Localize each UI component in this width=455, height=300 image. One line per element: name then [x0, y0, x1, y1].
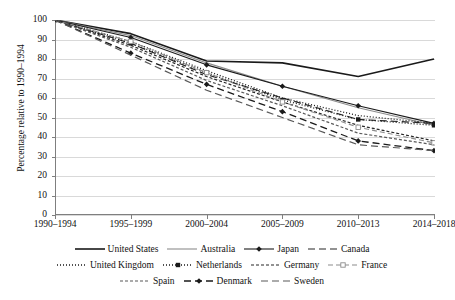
x-tick-label: 2000–2004 [185, 219, 228, 230]
y-tick-label: 20 [38, 171, 48, 181]
legend-marker [257, 246, 263, 252]
legend-swatch-united-states [75, 244, 105, 254]
legend-item-japan[interactable]: Japan [244, 244, 299, 255]
legend-item-netherlands[interactable]: Netherlands [163, 260, 242, 271]
data-point-marker [432, 141, 435, 145]
legend-label: Spain [153, 276, 175, 287]
y-tick-label: 80 [38, 54, 48, 64]
plot-area [55, 20, 435, 215]
y-tick-label: 50 [38, 113, 48, 123]
legend-label: Australia [200, 244, 235, 255]
legend-item-united-kingdom[interactable]: United Kingdom [57, 260, 154, 271]
legend-item-sweden[interactable]: Sweden [261, 276, 324, 287]
legend-label: United Kingdom [90, 260, 154, 271]
y-tick-label: 70 [38, 74, 48, 84]
legend-marker [196, 278, 202, 284]
series-united-states [55, 20, 434, 77]
data-point-marker [280, 100, 284, 104]
legend-row: United StatesAustraliaJapanCanada [0, 241, 444, 257]
legend-label: Japan [277, 244, 299, 255]
y-axis-title: Percentage relative to 1990–1994 [16, 18, 26, 198]
y-tick-label: 60 [38, 93, 48, 103]
legend-marker [341, 263, 345, 267]
legend-item-spain[interactable]: Spain [120, 276, 175, 287]
legend-label: Sweden [294, 276, 324, 287]
legend-label: Canada [341, 244, 370, 255]
data-point-marker [129, 39, 133, 43]
legend-swatch-germany [251, 260, 281, 270]
x-tick-label: 1995–1999 [109, 219, 152, 230]
legend-label: France [361, 260, 387, 271]
x-tick-label: 2005–2009 [261, 219, 304, 230]
data-point-marker [204, 62, 210, 68]
legend-swatch-spain [120, 276, 150, 286]
legend-item-australia[interactable]: Australia [167, 244, 235, 255]
legend-row: United KingdomNetherlandsGermanyFrance [0, 257, 444, 273]
legend-swatch-australia [167, 244, 197, 254]
legend-row: SpainDenmarkSweden [0, 273, 444, 289]
data-point-marker [280, 84, 286, 90]
legend-item-canada[interactable]: Canada [308, 244, 370, 255]
legend-item-denmark[interactable]: Denmark [184, 276, 252, 287]
x-axis-tick-labels: 1990–19941995–19992000–20042005–20092010… [55, 219, 435, 235]
data-point-marker [204, 82, 210, 88]
y-tick-label: 40 [38, 132, 48, 142]
gridline [55, 215, 435, 216]
legend-swatch-denmark [184, 276, 214, 286]
chart-legend: United StatesAustraliaJapanCanadaUnited … [0, 241, 444, 293]
legend-swatch-japan [244, 244, 274, 254]
y-tick-label: 30 [38, 152, 48, 162]
legend-swatch-united-kingdom [57, 260, 87, 270]
x-tick-label: 2010–2013 [337, 219, 380, 230]
data-point-marker [355, 138, 361, 144]
legend-item-united-states[interactable]: United States [75, 244, 159, 255]
y-tick-label: 10 [38, 191, 48, 201]
data-point-marker [280, 109, 286, 115]
y-tick-label: 100 [33, 15, 47, 25]
legend-label: Netherlands [196, 260, 242, 271]
legend-swatch-canada [308, 244, 338, 254]
legend-label: Germany [284, 260, 319, 271]
series-lines [55, 20, 435, 215]
x-tick-label: 1990–1994 [34, 219, 77, 230]
legend-label: United States [108, 244, 159, 255]
legend-marker [176, 263, 180, 267]
data-point-marker [204, 70, 208, 74]
legend-swatch-france [328, 260, 358, 270]
legend-label: Denmark [217, 276, 252, 287]
y-tick-label: 90 [38, 35, 48, 45]
data-point-marker [356, 117, 360, 121]
data-point-marker [356, 125, 360, 129]
legend-item-france[interactable]: France [328, 260, 387, 271]
legend-swatch-sweden [261, 276, 291, 286]
legend-item-germany[interactable]: Germany [251, 260, 319, 271]
series-spain [55, 20, 434, 145]
legend-swatch-netherlands [163, 260, 193, 270]
x-tick-label: 2014–2018 [413, 219, 455, 230]
y-axis-tick-labels: 0102030405060708090100 [0, 20, 52, 215]
data-point-marker [432, 123, 435, 127]
